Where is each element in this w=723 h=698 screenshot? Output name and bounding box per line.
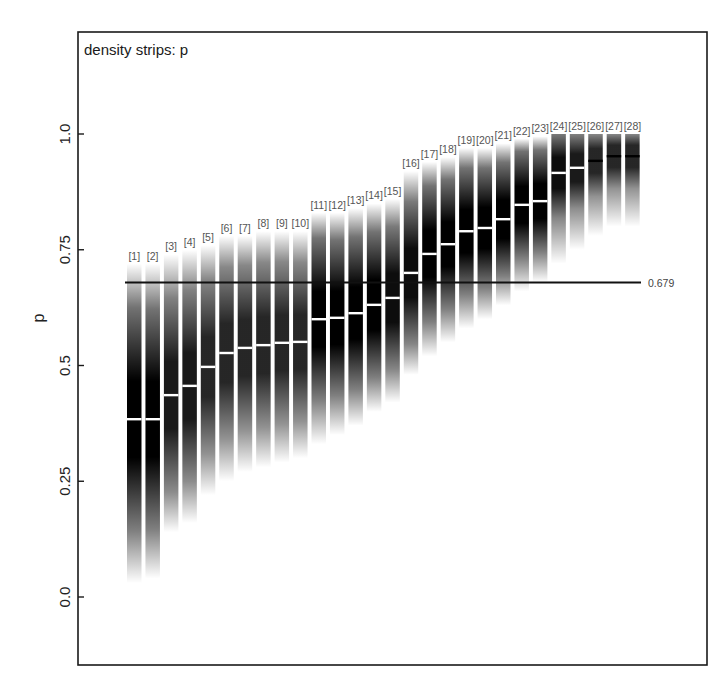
median-marker: [293, 341, 308, 343]
density-strip: [8]: [256, 217, 271, 467]
median-marker: [219, 352, 234, 354]
strip-density: [219, 236, 234, 481]
strip-label: [27]: [605, 120, 623, 132]
median-marker: [330, 317, 345, 319]
median-marker: [533, 200, 548, 202]
median-marker: [238, 347, 253, 349]
density-strip: [11]: [310, 199, 327, 445]
strip-label: [3]: [165, 240, 177, 252]
median-marker: [459, 230, 474, 232]
median-marker: [404, 272, 419, 274]
density-strip: [22]: [513, 125, 531, 292]
strip-label: [26]: [587, 120, 605, 132]
strip-density: [348, 208, 363, 426]
strip-label: [8]: [258, 217, 270, 229]
strip-label: [21]: [494, 129, 512, 141]
median-marker: [551, 172, 566, 174]
strip-density: [514, 139, 529, 292]
strip-density: [164, 254, 179, 532]
density-strip: [24]: [550, 120, 568, 264]
median-marker: [182, 385, 197, 387]
density-strip: [25]: [568, 120, 586, 250]
y-tick-label: 1.0: [56, 124, 73, 145]
strip-label: [14]: [365, 189, 383, 201]
strip-label: [28]: [624, 120, 642, 132]
density-strip: [3]: [164, 240, 179, 532]
strip-density: [496, 143, 511, 305]
median-marker: [441, 243, 456, 245]
strip-label: [16]: [402, 157, 420, 169]
y-tick-label: 0.25: [56, 467, 73, 496]
median-marker: [588, 160, 603, 162]
strip-density: [256, 231, 271, 467]
strip-density: [330, 213, 345, 435]
strip-label: [25]: [568, 120, 586, 132]
strip-density: [478, 148, 493, 319]
median-marker: [312, 318, 327, 320]
density-strip: [26]: [587, 120, 605, 236]
density-strip: [2]: [145, 250, 160, 579]
median-marker: [164, 394, 179, 396]
chart-title: density strips: p: [84, 41, 188, 58]
strip-label: [10]: [292, 217, 310, 229]
strip-label: [11]: [310, 199, 327, 211]
median-marker: [367, 304, 382, 306]
density-strips: [1][2][3][4][5][6][7][8][9][10][11][12][…: [127, 120, 641, 583]
strip-label: [5]: [202, 231, 214, 243]
strip-label: [24]: [550, 120, 568, 132]
density-strip: [4]: [182, 236, 197, 523]
strip-density: [422, 162, 437, 356]
density-strip: [17]: [421, 148, 439, 356]
median-marker: [625, 155, 640, 157]
strip-label: [15]: [384, 185, 402, 197]
strip-label: [19]: [458, 134, 476, 146]
density-strip: [12]: [328, 199, 346, 435]
strip-density: [275, 231, 290, 462]
density-strip: [19]: [458, 134, 476, 329]
median-marker: [256, 344, 271, 346]
strip-label: [22]: [513, 125, 531, 137]
strip-label: [18]: [439, 143, 457, 155]
median-marker: [607, 155, 622, 157]
strip-density: [293, 231, 308, 458]
strip-label: [13]: [347, 194, 365, 206]
strip-density: [570, 134, 585, 250]
strip-label: [23]: [531, 122, 549, 134]
density-strip: [1]: [127, 250, 142, 583]
median-marker: [478, 227, 493, 229]
strip-density: [607, 134, 622, 227]
strip-label: [6]: [221, 222, 233, 234]
y-axis-label: p: [30, 313, 47, 322]
strip-label: [17]: [421, 148, 439, 160]
strip-density: [367, 203, 382, 411]
median-marker: [127, 418, 142, 420]
density-strip: [21]: [494, 129, 512, 305]
density-strip-chart: density strips: p 0.00.250.50.751.0 p [1…: [0, 0, 723, 698]
strip-density: [459, 148, 474, 329]
density-strip: [5]: [201, 231, 216, 495]
density-strip: [20]: [476, 134, 494, 319]
strip-density: [588, 134, 603, 236]
strip-label: [7]: [239, 222, 251, 234]
reference-line-label: 0.679: [648, 277, 674, 289]
density-strip: [18]: [439, 143, 457, 342]
density-strip: [14]: [365, 189, 383, 411]
density-strip: [13]: [347, 194, 365, 426]
median-marker: [422, 253, 437, 255]
density-strip: [9]: [275, 217, 290, 462]
density-strip: [15]: [384, 185, 402, 403]
strip-label: [9]: [276, 217, 288, 229]
median-marker: [570, 167, 585, 169]
median-marker: [201, 366, 216, 368]
strip-density: [145, 264, 160, 579]
y-tick-label: 0.5: [56, 355, 73, 376]
strip-density: [312, 213, 327, 445]
y-axis: 0.00.250.50.751.0: [56, 124, 84, 608]
strip-density: [127, 264, 142, 583]
median-marker: [275, 342, 290, 344]
density-strip: [27]: [605, 120, 623, 227]
density-strip: [7]: [238, 222, 253, 472]
strip-label: [1]: [128, 250, 140, 262]
strip-density: [625, 134, 640, 227]
y-tick-label: 0.75: [56, 235, 73, 264]
